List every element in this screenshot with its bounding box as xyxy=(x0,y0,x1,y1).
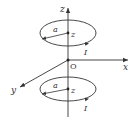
origin-label: O xyxy=(70,62,77,71)
two-current-loops-diagram: z x y O a z I a z I xyxy=(0,0,131,118)
upper-center-label: z xyxy=(70,30,76,39)
z-axis-label: z xyxy=(59,4,65,14)
upper-radius-label: a xyxy=(53,25,58,34)
lower-center-label: z xyxy=(70,86,76,95)
upper-current-label: I xyxy=(83,48,88,57)
y-axis-label: y xyxy=(10,85,17,95)
lower-radius-label: a xyxy=(53,81,58,90)
x-axis-label: x xyxy=(123,62,128,72)
lower-current-label: I xyxy=(83,104,88,113)
